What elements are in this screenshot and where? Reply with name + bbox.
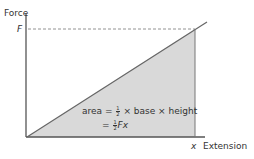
extension-tick-label: x <box>191 142 196 151</box>
equals-prefix: = <box>102 120 112 130</box>
half-fraction: 12 <box>113 120 116 131</box>
area-formula-line2: = 12Fx <box>102 120 128 131</box>
area-formula-line1: area = 12 × base × height <box>82 106 197 117</box>
force-extension-graph <box>0 0 254 159</box>
force-tick-label: F <box>17 25 22 34</box>
area-prefix: area = <box>82 106 115 116</box>
half-fraction: 12 <box>116 106 119 117</box>
x-axis-label: Extension <box>203 142 247 151</box>
y-axis-label: Force <box>4 9 28 18</box>
area-suffix: × base × height <box>121 106 198 116</box>
fx-term: Fx <box>118 120 129 130</box>
